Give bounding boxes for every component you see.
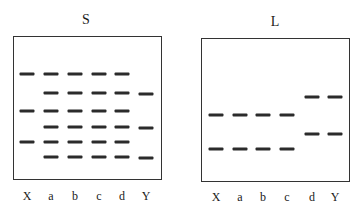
band-L-b <box>256 114 271 117</box>
band-S-a <box>44 92 59 95</box>
band-S-c <box>92 141 107 144</box>
band-S-b <box>68 156 83 159</box>
lane-label-L-d: d <box>309 190 315 205</box>
band-S-d <box>115 92 130 95</box>
gel-title-L: L <box>271 14 280 30</box>
band-L-c <box>280 114 295 117</box>
lane-label-L-c: c <box>284 190 289 205</box>
band-L-d <box>305 133 320 136</box>
band-L-b <box>256 148 271 151</box>
lane-label-S-d: d <box>119 189 125 204</box>
band-S-a <box>44 156 59 159</box>
band-L-a <box>233 114 248 117</box>
band-S-c <box>92 92 107 95</box>
band-S-Y <box>139 93 154 96</box>
lane-label-S-X: X <box>23 189 32 204</box>
band-S-d <box>115 73 130 76</box>
band-S-b <box>68 141 83 144</box>
lane-label-L-a: a <box>237 190 242 205</box>
lane-label-L-X: X <box>212 190 221 205</box>
band-L-Y <box>328 133 343 136</box>
band-S-a <box>44 141 59 144</box>
band-S-X <box>20 141 35 144</box>
gel-box-L <box>201 38 350 182</box>
band-S-a <box>44 110 59 113</box>
band-S-X <box>20 110 35 113</box>
band-S-b <box>68 92 83 95</box>
band-S-b <box>68 110 83 113</box>
band-L-c <box>280 148 295 151</box>
band-L-X <box>209 114 224 117</box>
band-S-a <box>44 73 59 76</box>
band-S-c <box>92 73 107 76</box>
gel-title-S: S <box>82 12 90 28</box>
band-S-b <box>68 73 83 76</box>
lane-label-L-Y: Y <box>331 190 340 205</box>
lane-label-S-c: c <box>96 189 101 204</box>
band-S-Y <box>139 127 154 130</box>
band-L-Y <box>328 96 343 99</box>
band-S-c <box>92 126 107 129</box>
band-L-X <box>209 148 224 151</box>
band-L-a <box>233 148 248 151</box>
lane-label-S-b: b <box>72 189 78 204</box>
lane-label-L-b: b <box>260 190 266 205</box>
band-S-d <box>115 156 130 159</box>
band-L-d <box>305 96 320 99</box>
band-S-c <box>92 156 107 159</box>
band-S-d <box>115 126 130 129</box>
lane-label-S-Y: Y <box>142 189 151 204</box>
band-S-d <box>115 141 130 144</box>
band-S-X <box>20 73 35 76</box>
band-S-b <box>68 126 83 129</box>
band-S-a <box>44 126 59 129</box>
band-S-c <box>92 110 107 113</box>
band-S-d <box>115 110 130 113</box>
band-S-Y <box>139 157 154 160</box>
lane-label-S-a: a <box>48 189 53 204</box>
